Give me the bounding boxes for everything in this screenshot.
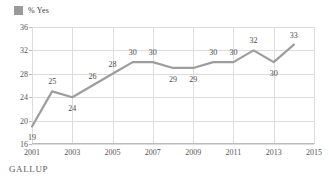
data-point-label: 28 [109, 59, 117, 68]
data-point-label: 19 [28, 133, 36, 142]
y-axis-tick-label: 24 [20, 93, 28, 102]
plot-area: 162024283236 200120032005200720092011201… [32, 27, 314, 144]
data-point-label: 26 [88, 71, 96, 80]
data-point-label: 24 [68, 104, 76, 113]
gridline-horizontal [32, 144, 314, 145]
data-point-label: 30 [129, 48, 137, 57]
x-axis-tick-label: 2011 [226, 148, 242, 157]
series-line-chart [32, 27, 314, 144]
data-point-label: 33 [290, 30, 298, 39]
x-axis-tick-label: 2015 [306, 148, 322, 157]
chart-container: % Yes 162024283236 200120032005200720092… [0, 0, 329, 180]
source-attribution: GALLUP [9, 164, 48, 174]
data-point-label: 30 [270, 69, 278, 78]
gridline-vertical [314, 27, 315, 144]
x-axis-tick-label: 2009 [185, 148, 201, 157]
x-axis-tick-label: 2003 [64, 148, 80, 157]
x-axis-tick-label: 2001 [24, 148, 40, 157]
data-point-label: 29 [189, 74, 197, 83]
x-axis-tick-label: 2007 [145, 148, 161, 157]
legend-swatch-icon [14, 6, 23, 15]
data-point-label: 29 [169, 74, 177, 83]
legend-label: % Yes [28, 6, 49, 15]
y-axis-tick-label: 36 [20, 23, 28, 32]
x-axis-tick-label: 2013 [266, 148, 282, 157]
y-axis-tick-label: 28 [20, 69, 28, 78]
x-axis-tick-label: 2005 [105, 148, 121, 157]
data-point-label: 30 [209, 48, 217, 57]
data-point-label: 30 [229, 48, 237, 57]
data-point-label: 32 [250, 36, 258, 45]
y-axis-tick-mark [29, 144, 32, 145]
chart-legend: % Yes [14, 4, 49, 16]
data-point-label: 30 [149, 48, 157, 57]
y-axis-tick-label: 20 [20, 116, 28, 125]
series-line-percent-yes [32, 45, 294, 127]
y-axis-tick-label: 32 [20, 46, 28, 55]
data-point-label: 25 [48, 77, 56, 86]
